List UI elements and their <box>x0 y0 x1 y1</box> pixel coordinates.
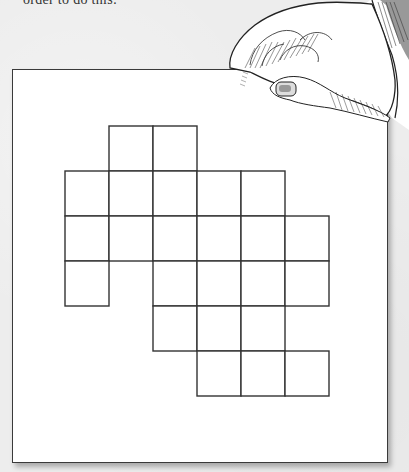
grid-cell-r3-c4 <box>241 261 285 306</box>
square-grid-shape <box>0 0 409 472</box>
grid-cell-r3-c5 <box>285 261 329 306</box>
grid-cell-r2-c5 <box>285 216 329 261</box>
grid-cell-r2-c0 <box>65 216 109 261</box>
grid-cell-r1-c2 <box>153 171 197 216</box>
grid-cell-r5-c5 <box>285 351 329 396</box>
grid-cell-r1-c1 <box>109 171 153 216</box>
grid-cell-r4-c4 <box>241 306 285 351</box>
grid-cell-r2-c3 <box>197 216 241 261</box>
grid-cell-r4-c2 <box>153 306 197 351</box>
grid-cell-r5-c3 <box>197 351 241 396</box>
grid-cell-r2-c4 <box>241 216 285 261</box>
grid-cell-r2-c2 <box>153 216 197 261</box>
grid-cell-r5-c4 <box>241 351 285 396</box>
grid-cell-r3-c2 <box>153 261 197 306</box>
grid-cell-r0-c2 <box>153 126 197 171</box>
grid-cell-r1-c3 <box>197 171 241 216</box>
grid-cell-r4-c3 <box>197 306 241 351</box>
grid-cell-r1-c0 <box>65 171 109 216</box>
grid-cell-r3-c0 <box>65 261 109 306</box>
grid-cell-r2-c1 <box>109 216 153 261</box>
grid-cell-r3-c3 <box>197 261 241 306</box>
grid-cell-r1-c4 <box>241 171 285 216</box>
grid-cell-r0-c1 <box>109 126 153 171</box>
